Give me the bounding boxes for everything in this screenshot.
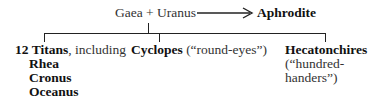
cyclopes-label: Cyclopes (“round-eyes”) (131, 42, 267, 58)
drop-line-titans (44, 33, 45, 42)
drop-line-cyclopes (159, 33, 160, 42)
hecatonchires-gloss-2: handers”) (285, 70, 337, 86)
parents-label: Gaea + Uranus (115, 5, 196, 21)
drop-line-hecatonchires (325, 33, 326, 42)
branch-line (44, 33, 326, 34)
trunk-line (148, 23, 149, 33)
arrow-icon (197, 6, 255, 20)
aphrodite-label: Aphrodite (257, 5, 316, 21)
titan-oceanus: Oceanus (29, 84, 79, 100)
